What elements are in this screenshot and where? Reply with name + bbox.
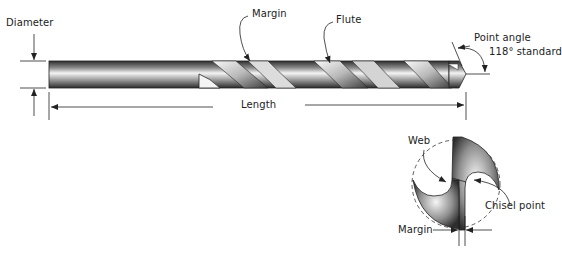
end-view-lower-lip	[413, 180, 459, 229]
web-leader	[423, 150, 446, 182]
drill-end-view	[412, 137, 500, 230]
diameter-dimension	[20, 34, 46, 116]
label-margin-width: Margin	[398, 224, 433, 235]
drill-side-view	[49, 61, 466, 88]
flute-leader	[324, 22, 333, 63]
label-web: Web	[408, 135, 430, 146]
label-margin: Margin	[252, 8, 287, 19]
margin-leader	[240, 16, 250, 61]
label-chisel-point: Chisel point	[485, 200, 545, 211]
label-point-angle: Point angle	[474, 32, 531, 43]
label-diameter: Diameter	[6, 17, 54, 28]
label-flute: Flute	[336, 14, 361, 25]
label-point-angle-value: 118° standard	[489, 46, 562, 57]
label-length: Length	[241, 99, 276, 110]
